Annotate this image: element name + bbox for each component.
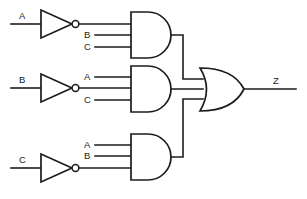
label-and3-input-a: A bbox=[84, 139, 91, 150]
circuit-canvas: A B C B C A C A B Z bbox=[0, 0, 307, 199]
and-gate-1-body bbox=[131, 12, 171, 58]
label-output-z: Z bbox=[273, 75, 279, 86]
and-gate-3-body bbox=[131, 134, 171, 180]
label-and2-input-a: A bbox=[84, 71, 91, 82]
inverter-c-bubble-icon bbox=[72, 165, 79, 172]
or-gate-body bbox=[200, 68, 244, 111]
label-input-a-top: A bbox=[19, 10, 26, 21]
label-input-b-middle: B bbox=[19, 74, 26, 85]
wire-and3-to-or bbox=[171, 99, 203, 157]
label-and1-input-c: C bbox=[84, 41, 91, 52]
inverter-c-body bbox=[41, 154, 72, 182]
label-input-c-bottom: C bbox=[19, 154, 26, 165]
inverter-a-body bbox=[41, 10, 72, 38]
wire-and1-to-or bbox=[171, 35, 203, 79]
inverter-b-body bbox=[41, 74, 72, 102]
inverter-a-bubble-icon bbox=[72, 21, 79, 28]
inverter-b-bubble-icon bbox=[72, 85, 79, 92]
label-and3-input-b: B bbox=[84, 150, 91, 161]
label-and1-input-b: B bbox=[84, 29, 91, 40]
logic-circuit-diagram: A B C B C A C A B Z bbox=[0, 0, 307, 199]
label-and2-input-c: C bbox=[84, 94, 91, 105]
and-gate-2-body bbox=[131, 66, 171, 112]
